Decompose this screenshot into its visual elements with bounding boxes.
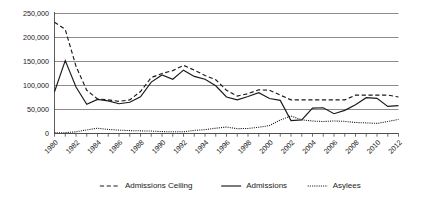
x-axis-tick-label: 2000 (257, 138, 275, 156)
x-axis-tick-label: 2002 (279, 138, 297, 156)
legend-label-asylees: Asylees (333, 181, 361, 190)
x-axis-tick-label: 2012 (386, 138, 404, 156)
x-axis-tick-label: 1988 (128, 138, 146, 156)
legend-label-admissions-ceiling: Admissions Ceiling (125, 181, 193, 190)
x-axis-tick-label: 1996 (214, 138, 232, 156)
series-line-asylees (55, 116, 399, 133)
x-axis-tick-label: 2006 (322, 138, 340, 156)
y-axis-tick-label: 50,000 (27, 105, 49, 114)
chart-canvas: 050,000100,000150,000200,000250,00019801… (0, 0, 422, 201)
x-axis-tick-label: 1994 (193, 138, 211, 156)
refugee-admissions-chart: 050,000100,000150,000200,000250,00019801… (0, 0, 422, 201)
x-axis-tick-label: 1982 (64, 138, 82, 156)
y-axis-tick-label: 250,000 (23, 9, 49, 18)
y-axis-tick-label: 100,000 (23, 81, 49, 90)
x-axis-tick-label: 1992 (171, 138, 189, 156)
y-axis-tick-label: 150,000 (23, 57, 49, 66)
x-axis-tick-label: 1980 (42, 138, 60, 156)
y-axis-tick-label: 200,000 (23, 33, 49, 42)
x-axis-tick-label: 1990 (150, 138, 168, 156)
x-axis-tick-label: 2008 (343, 138, 361, 156)
y-axis-tick-label: 0 (45, 129, 49, 138)
x-axis-tick-label: 2010 (365, 138, 383, 156)
x-axis-tick-label: 1986 (107, 138, 125, 156)
legend-label-admissions: Admissions (246, 181, 287, 190)
x-axis-tick-label: 1998 (236, 138, 254, 156)
x-axis-tick-label: 2004 (300, 138, 318, 156)
x-axis-tick-label: 1984 (85, 138, 103, 156)
